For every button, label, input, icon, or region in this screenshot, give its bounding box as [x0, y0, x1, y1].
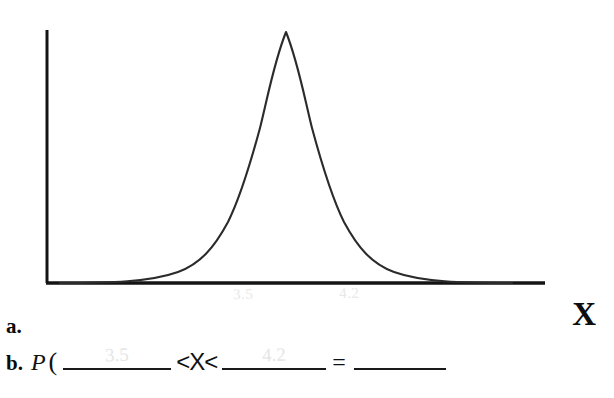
x-axis-label: X — [572, 298, 596, 331]
question-item-b: b. P ( 3.5 <X< 4.2 = — [6, 344, 566, 382]
open-paren: ( — [49, 347, 58, 377]
inequality-relation: <X< — [176, 348, 217, 376]
result-blank[interactable] — [354, 344, 446, 370]
probability-symbol: P — [31, 349, 46, 376]
pencil-tick-upper-bound: 4.2 — [339, 285, 360, 303]
question-item-a: a. — [6, 314, 566, 344]
lower-bound-handwriting: 3.5 — [105, 344, 130, 367]
question-marker-b: b. — [6, 351, 23, 376]
pencil-tick-lower-bound: 3.5 — [233, 286, 254, 304]
lower-bound-blank[interactable]: 3.5 — [63, 344, 171, 370]
question-block: a. b. P ( 3.5 <X< 4.2 = — [6, 314, 566, 382]
question-marker-a: a. — [6, 314, 22, 339]
upper-bound-handwriting: 4.2 — [262, 344, 287, 367]
upper-bound-blank[interactable]: 4.2 — [222, 344, 326, 370]
normal-curve-figure: 3.5 4.2 — [0, 0, 614, 300]
equals-sign: = — [332, 349, 346, 376]
normal-distribution-plot — [0, 0, 614, 300]
bell-curve-path — [60, 32, 512, 283]
